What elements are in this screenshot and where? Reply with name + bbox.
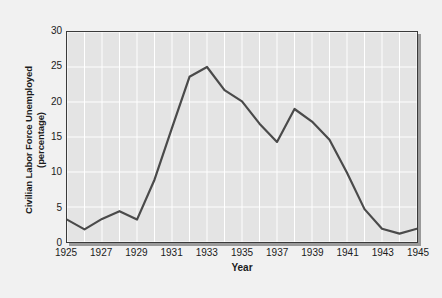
x-tick-label: 1939 (292, 247, 332, 259)
x-axis-title: Year (66, 262, 418, 273)
x-tick-label: 1941 (328, 247, 368, 259)
y-tick-label: 25 (40, 61, 62, 71)
y-tick-label: 30 (40, 26, 62, 36)
x-tick-label: 1927 (81, 247, 121, 259)
line-chart-svg (67, 32, 417, 242)
x-axis-tick-labels: 1925192719291931193319351937193919411943… (66, 247, 418, 261)
x-tick-label: 1933 (187, 247, 227, 259)
x-tick-label: 1943 (363, 247, 403, 259)
y-tick-label: 15 (40, 132, 62, 142)
y-tick-label: 5 (40, 203, 62, 213)
x-tick-label: 1931 (152, 247, 192, 259)
y-tick-label: 20 (40, 97, 62, 107)
chart-figure: Civilian Labor Force Unemployed (percent… (0, 0, 442, 298)
x-tick-label: 1925 (46, 247, 86, 259)
y-tick-label: 10 (40, 167, 62, 177)
y-axis-title-line1: Civilian Labor Force Unemployed (23, 35, 35, 245)
plot-area (66, 31, 418, 243)
x-tick-label: 1937 (257, 247, 297, 259)
x-tick-label: 1945 (398, 247, 438, 259)
x-tick-label: 1929 (116, 247, 156, 259)
x-tick-label: 1935 (222, 247, 262, 259)
